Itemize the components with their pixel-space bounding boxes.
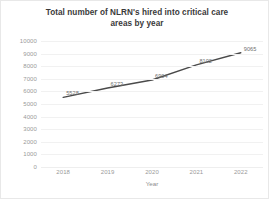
x-axis-tick-label: 2018 [56,169,70,175]
y-axis-tick-label: 0 [34,164,37,170]
x-axis-tick-label: 2021 [190,169,204,175]
gridline [41,104,263,105]
gridline [41,41,263,42]
gridline [41,66,263,67]
data-point-label: 6273 [111,81,124,87]
y-axis-tick-label: 10000 [20,38,37,44]
gridline [41,154,263,155]
data-point-label: 8102 [199,58,212,64]
data-point-label: 5528 [66,90,79,96]
y-axis-tick-label: 8000 [23,63,37,69]
x-axis-tick-label: 2020 [145,169,159,175]
chart-title-line-1: Total number of NLRN's hired into critic… [23,7,251,18]
y-axis-tick-label: 4000 [23,114,37,120]
x-axis-title: Year [41,180,263,187]
y-axis-tick-label: 7000 [23,76,37,82]
data-point-label: 9065 [244,46,257,52]
chart-container: Total number of NLRN's hired into critic… [0,0,269,199]
data-point-label: 6904 [155,73,168,79]
y-axis-tick-label: 3000 [23,126,37,132]
y-axis-tick-label: 2000 [23,139,37,145]
y-axis-tick-labels: 0100020003000400050006000700080009000100… [1,41,41,167]
gridline [41,117,263,118]
y-axis-tick-label: 9000 [23,51,37,57]
gridline [41,129,263,130]
gridline [41,142,263,143]
y-axis-tick-label: 6000 [23,88,37,94]
plot-area: 55286273690481029065 [41,41,263,167]
chart-title: Total number of NLRN's hired into critic… [23,7,251,29]
x-axis-tick-label: 2022 [234,169,248,175]
y-axis-tick-label: 1000 [23,151,37,157]
gridline [41,79,263,80]
gridline [41,54,263,55]
y-axis-tick-label: 5000 [23,101,37,107]
chart-title-line-2: areas by year [23,18,251,29]
gridline [41,167,263,168]
x-axis-tick-label: 2019 [101,169,115,175]
